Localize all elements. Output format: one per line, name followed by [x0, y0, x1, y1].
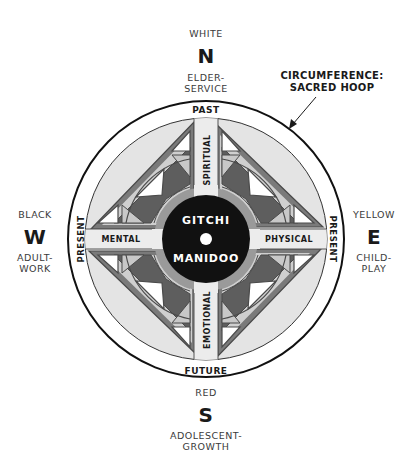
band-label-emotional: EMOTIONAL	[203, 291, 212, 349]
center-text-line2: MANIDOO	[173, 252, 239, 265]
east-letter: E	[346, 226, 402, 248]
south-stage-line1: ADOLESCENT-	[146, 430, 266, 441]
annotation-line1: CIRCUMFERENCE:	[272, 70, 392, 82]
east-color-label: YELLOW	[346, 209, 402, 220]
hoop-label-past: PAST	[192, 105, 220, 115]
band-label-spiritual: SPIRITUAL	[203, 134, 212, 185]
annotation-line2: SACRED HOOP	[272, 82, 392, 94]
hoop-label-present-right: PRESENT	[328, 216, 338, 263]
band-label-mental: MENTAL	[101, 235, 140, 244]
north-stage-line2: SERVICE	[166, 83, 246, 94]
annotation-arrow-line	[293, 97, 316, 124]
west-stage-line2: WORK	[10, 263, 60, 274]
north-letter: N	[176, 45, 236, 67]
south-color-label: RED	[176, 387, 236, 398]
east-stage-line2: PLAY	[346, 263, 402, 274]
north-stage-line1: ELDER-	[166, 72, 246, 83]
west-stage-line1: ADULT-	[10, 252, 60, 263]
west-letter: W	[10, 226, 60, 248]
hoop-label-future: FUTURE	[185, 366, 228, 376]
north-color-label: WHITE	[176, 28, 236, 39]
south-stage-line2: GROWTH	[146, 441, 266, 452]
west-color-label: BLACK	[10, 209, 60, 220]
hoop-label-present-left: PRESENT	[76, 216, 86, 263]
south-letter: S	[176, 404, 236, 426]
band-label-physical: PHYSICAL	[265, 235, 313, 244]
center-text-line1: GITCHI	[182, 214, 230, 227]
center-dot	[200, 233, 212, 245]
east-stage-line1: CHILD-	[346, 252, 402, 263]
